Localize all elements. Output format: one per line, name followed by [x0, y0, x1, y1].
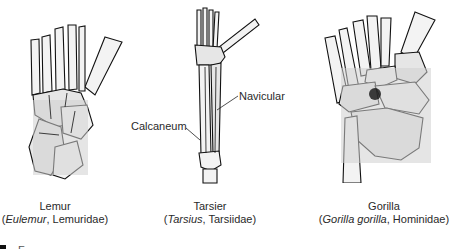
- gorilla-taxonomy: (Gorilla gorilla, Hominidae): [314, 213, 454, 226]
- truncated-caption: F…: [0, 243, 454, 249]
- lemur-label: Lemur (Eulemur, Lemuridae): [0, 200, 110, 226]
- lemur-common-name: Lemur: [0, 200, 110, 213]
- calcaneum-callout: Calcaneum: [131, 120, 187, 132]
- tarsier-taxonomy: (Tarsius, Tarsiidae): [155, 213, 265, 226]
- gorilla-genus: Gorilla gorilla: [323, 213, 387, 225]
- gorilla-common-name: Gorilla: [314, 200, 454, 213]
- tarsier-family: Tarsiidae: [208, 213, 252, 225]
- tarsier-genus: Tarsius: [167, 213, 202, 225]
- gorilla-family: Hominidae: [393, 213, 446, 225]
- gorilla-label: Gorilla (Gorilla gorilla, Hominidae): [314, 200, 454, 226]
- caption-marker: [0, 245, 6, 249]
- lemur-taxonomy: (Eulemur, Lemuridae): [0, 213, 110, 226]
- tarsier-common-name: Tarsier: [155, 200, 265, 213]
- lemur-family: Lemuridae: [53, 213, 105, 225]
- tarsier-label: Tarsier (Tarsius, Tarsiidae): [155, 200, 265, 226]
- caption-text: F…: [18, 244, 42, 249]
- gorilla-foot-illustration: [315, 8, 454, 183]
- lemur-genus: Eulemur: [5, 213, 46, 225]
- navicular-callout: Navicular: [239, 90, 285, 102]
